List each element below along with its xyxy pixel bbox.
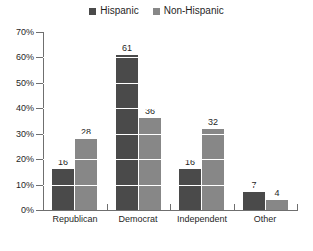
y-tick-30	[36, 134, 43, 135]
bar-chart: Hispanic Non-Hispanic 0%10%20%30%40%50%6…	[0, 0, 313, 251]
y-axis-label: 70%	[16, 28, 34, 37]
y-tick-40	[36, 108, 43, 109]
y-tick-0	[36, 210, 43, 211]
y-tick-70	[36, 32, 43, 33]
gridline	[43, 83, 297, 84]
y-axis-label: 10%	[16, 181, 34, 190]
legend-label-hispanic: Hispanic	[100, 6, 138, 16]
y-tick-20	[36, 159, 43, 160]
bar-value-label: 32	[202, 118, 224, 127]
plot-area: 16286136163274	[43, 32, 297, 210]
y-axis-label: 30%	[16, 130, 34, 139]
bar-value-label: 61	[116, 44, 138, 53]
gridline	[43, 185, 297, 186]
legend-entry-hispanic: Hispanic	[89, 6, 138, 16]
legend-entry-non-hispanic: Non-Hispanic	[153, 6, 224, 16]
bar-republican-non-hispanic	[75, 139, 97, 210]
y-axis-label: 20%	[16, 155, 34, 164]
gridline	[43, 134, 297, 135]
bar-independent-hispanic	[179, 169, 201, 210]
bar-democrat-hispanic	[116, 55, 138, 210]
bar-other-hispanic	[243, 192, 265, 210]
bars-layer: 16286136163274	[43, 32, 297, 210]
y-tick-10	[36, 185, 43, 186]
legend-label-non-hispanic: Non-Hispanic	[164, 6, 224, 16]
bar-republican-hispanic	[52, 169, 74, 210]
bar-democrat-non-hispanic	[139, 118, 161, 210]
legend-swatch-non-hispanic	[153, 8, 160, 15]
chart-legend: Hispanic Non-Hispanic	[0, 6, 313, 16]
bar-value-label: 28	[75, 128, 97, 137]
x-axis-label-other: Other	[215, 214, 313, 224]
bar-value-label: 4	[266, 189, 288, 198]
legend-swatch-hispanic	[89, 8, 96, 15]
gridline	[43, 57, 297, 58]
y-axis-label: 60%	[16, 53, 34, 62]
y-axis-label: 40%	[16, 104, 34, 113]
x-axis-tick	[297, 204, 298, 211]
bar-independent-non-hispanic	[202, 129, 224, 210]
x-axis-line	[36, 210, 298, 211]
y-axis-label: 50%	[16, 79, 34, 88]
y-tick-50	[36, 83, 43, 84]
gridline	[43, 159, 297, 160]
y-tick-60	[36, 57, 43, 58]
bar-other-non-hispanic	[266, 200, 288, 210]
gridline	[43, 108, 297, 109]
